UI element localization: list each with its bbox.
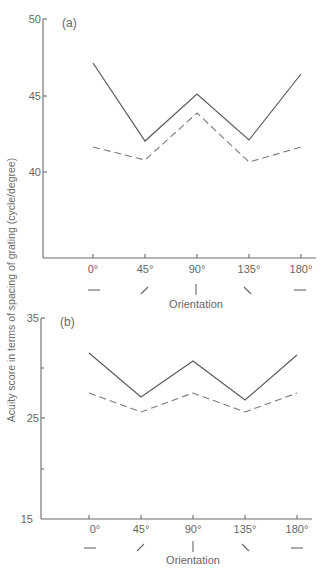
panel-a-orientation-glyphs [88, 284, 306, 295]
panel-a-y-ticks: 50 45 40 [29, 13, 47, 178]
diagonal-45-grating-icon [137, 544, 144, 551]
panel-a-solid-series [93, 63, 301, 141]
x-tick-label: 45° [133, 523, 150, 535]
y-tick-label: 25 [27, 412, 39, 424]
panel-a-x-axis-label: Orientation [169, 298, 223, 310]
y-tick-label: 50 [29, 13, 41, 25]
y-tick-label: 40 [29, 166, 41, 178]
x-tick-label: 90° [185, 523, 202, 535]
y-tick-label: 45 [29, 90, 41, 102]
y-tick-label: 35 [27, 312, 39, 324]
x-tick-label: 90° [189, 263, 206, 275]
panel-a-x-ticks: 0° 45° 90° 135° 180° [88, 254, 313, 275]
x-tick-label: 0° [90, 523, 101, 535]
panel-b-x-ticks: 0° 45° 90° 135° 180° [89, 515, 308, 535]
x-tick-label: 45° [137, 263, 154, 275]
figure: Acuity score in terms of spacing of grat… [0, 0, 330, 575]
panel-a-label: (a) [62, 16, 77, 30]
panel-b-label: (b) [60, 315, 75, 329]
panel-b-orientation-glyphs [84, 541, 303, 552]
panel-b-dashed-series [89, 393, 297, 412]
diagonal-135-grating-icon [244, 287, 251, 294]
panel-a: (a) 50 45 40 0° 45° 90° 135° 180° [29, 13, 316, 310]
diagonal-135-grating-icon [242, 544, 249, 551]
x-tick-label: 135° [238, 263, 261, 275]
x-tick-label: 135° [234, 523, 257, 535]
y-axis-label: Acuity score in terms of spacing of grat… [5, 158, 17, 422]
x-tick-label: 0° [88, 263, 99, 275]
x-tick-label: 180° [286, 523, 309, 535]
panel-b: (b) 35 25 15 0° 45° 90° 135° 180° [21, 312, 312, 566]
x-tick-label: 180° [290, 263, 313, 275]
y-tick-label: 15 [21, 513, 33, 525]
panel-b-x-axis-label: Orientation [166, 554, 220, 566]
panel-a-dashed-series [93, 113, 301, 162]
diagonal-45-grating-icon [141, 287, 148, 294]
